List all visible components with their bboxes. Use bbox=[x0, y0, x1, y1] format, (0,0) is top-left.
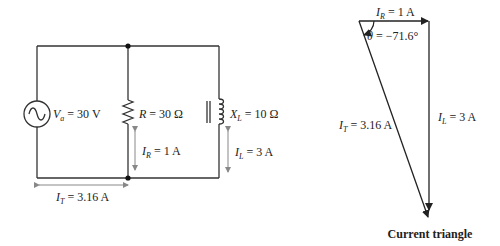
parallel-rl-circuit: Va = 30 V R = 30 Ω XL = 10 Ω IR = 1 A IL… bbox=[24, 43, 279, 206]
bottom-node bbox=[125, 175, 130, 180]
inductor-icon bbox=[207, 99, 224, 124]
triangle-it-label: IT = 3.16 A bbox=[338, 118, 393, 134]
phase-angle-label: θ = −71.6° bbox=[367, 29, 418, 43]
current-triangle: IR = 1 A θ = −71.6° IL = 3 A IT = 3.16 A… bbox=[338, 5, 477, 241]
inductor-current-label: IL = 3 A bbox=[234, 145, 274, 161]
triangle-ir-label: IR = 1 A bbox=[375, 5, 415, 21]
resistor-label: R = 30 Ω bbox=[138, 107, 183, 121]
resistor-current-label: IR = 1 A bbox=[141, 144, 181, 160]
triangle-title: Current triangle bbox=[388, 227, 473, 241]
diagram-canvas: Va = 30 V R = 30 Ω XL = 10 Ω IR = 1 A IL… bbox=[0, 0, 500, 246]
source-voltage-label: Va = 30 V bbox=[53, 107, 101, 123]
total-current-label: IT = 3.16 A bbox=[55, 190, 110, 206]
triangle-il-label: IL = 3 A bbox=[437, 110, 477, 126]
ac-source-icon bbox=[24, 101, 50, 127]
resistor-icon bbox=[123, 100, 133, 124]
top-node bbox=[125, 43, 130, 48]
inductor-reactance-label: XL = 10 Ω bbox=[229, 107, 279, 123]
